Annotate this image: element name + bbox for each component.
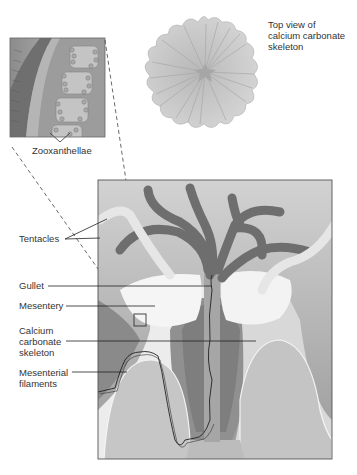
calcium-label-line2: carbonate: [19, 336, 79, 347]
top-view-label-line1: Top view of: [268, 19, 357, 30]
inset-magnified-tissue: [10, 38, 105, 141]
top-view-label-line2: calcium carbonate: [268, 30, 357, 41]
top-view-label: Top view of calcium carbonate skeleton: [268, 19, 357, 52]
calcium-carbonate-skeleton-label: Calcium carbonate skeleton: [19, 325, 79, 358]
calcium-label-line3: skeleton: [19, 347, 79, 358]
top-view-skeleton: [145, 16, 258, 127]
tentacles-label: Tentacles: [19, 233, 59, 244]
mesentery-label: Mesentery: [19, 300, 63, 311]
top-view-label-line3: skeleton: [268, 41, 357, 52]
mesenterial-filaments-label: Mesenterial filaments: [19, 367, 79, 389]
filaments-label-line1: Mesenterial: [19, 367, 79, 378]
gullet-label: Gullet: [19, 280, 44, 291]
zooxanthellae-label: Zooxanthellae: [32, 145, 92, 156]
calcium-label-line1: Calcium: [19, 325, 79, 336]
filaments-label-line2: filaments: [19, 378, 79, 389]
